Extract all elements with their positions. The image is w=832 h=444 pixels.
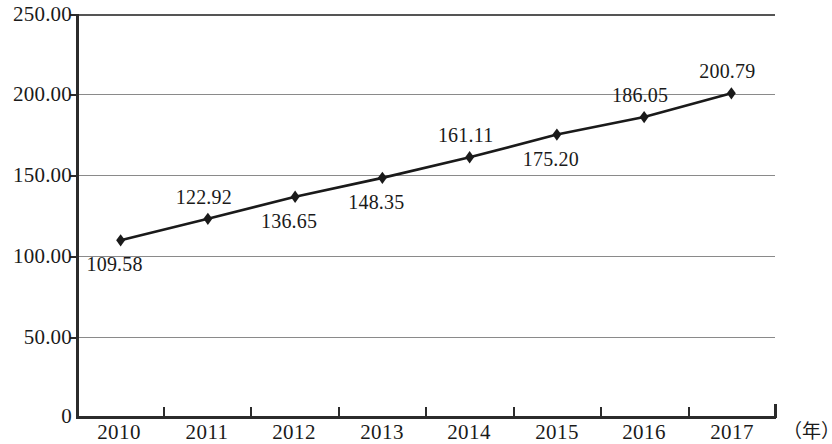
data-point-marker bbox=[552, 128, 561, 140]
data-point-label-2017: 200.79 bbox=[699, 61, 755, 81]
data-point-marker bbox=[727, 87, 736, 99]
data-point-label-2015: 175.20 bbox=[523, 149, 579, 169]
data-point-label-2013: 148.35 bbox=[348, 192, 404, 212]
data-point-marker bbox=[291, 191, 300, 203]
data-point-label-2010: 109.58 bbox=[87, 254, 143, 274]
data-point-label-2016: 186.05 bbox=[612, 85, 668, 105]
data-point-marker bbox=[378, 172, 387, 184]
data-point-label-2011: 122.92 bbox=[176, 187, 232, 207]
data-point-marker bbox=[203, 213, 212, 225]
line-chart: 250.00 200.00 150.00 100.00 50.00 0 2010… bbox=[0, 0, 832, 444]
series-line bbox=[121, 93, 732, 240]
data-point-label-2012: 136.65 bbox=[261, 211, 317, 231]
data-point-marker bbox=[116, 234, 125, 246]
data-point-marker bbox=[640, 111, 649, 123]
data-point-marker bbox=[465, 151, 474, 163]
data-point-label-2014: 161.11 bbox=[438, 125, 493, 145]
